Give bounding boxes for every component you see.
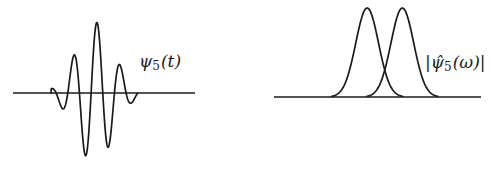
spectrum-label: |ψ̂5(ω)| [425, 52, 486, 74]
figure: ψ5(t) |ψ̂5(ω)| [0, 0, 492, 176]
frequency-domain-panel: |ψ̂5(ω)| [274, 8, 486, 97]
spectrum-label-subscript: 5 [444, 60, 452, 74]
wavelet-label-argument: (t) [161, 51, 181, 71]
spectrum-label-argument: (ω) [453, 52, 480, 72]
spectrum-label-bar-right: | [480, 52, 486, 72]
wavelet-label-symbol: ψ [139, 51, 153, 71]
spectrum-peak-1 [332, 8, 403, 96]
time-domain-panel: ψ5(t) [13, 22, 195, 155]
wavelet-label-subscript: 5 [152, 59, 160, 73]
wavelet-curve [51, 22, 137, 155]
wavelet-label: ψ5(t) [139, 51, 181, 73]
spectrum-label-symbol: ψ̂ [431, 52, 445, 72]
